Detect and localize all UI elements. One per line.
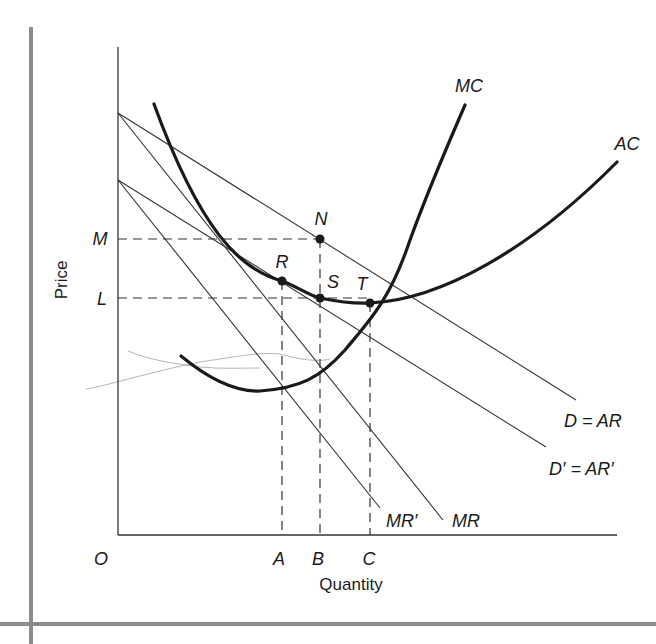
price-label-l: L xyxy=(97,289,107,309)
economics-diagram: Price Quantity O M L A B C N R S T MC AC… xyxy=(0,0,656,644)
origin-label: O xyxy=(94,549,108,569)
quantity-label-b: B xyxy=(312,549,324,569)
curve-label-mc: MC xyxy=(455,76,484,96)
point-label-r: R xyxy=(276,252,289,272)
point-label-s: S xyxy=(327,272,339,292)
point-label-n: N xyxy=(315,209,329,229)
mr-curve xyxy=(118,113,443,520)
demand-curve-d-ar xyxy=(118,113,576,400)
ac-curve xyxy=(154,104,617,303)
curve-label-ac: AC xyxy=(613,134,640,154)
quantity-label-a: A xyxy=(272,549,285,569)
price-label-m: M xyxy=(93,229,108,249)
mr-prime-curve xyxy=(118,180,380,508)
stray-marks xyxy=(86,351,330,389)
point-n xyxy=(316,235,325,244)
point-s xyxy=(316,294,325,303)
mc-curve xyxy=(181,105,465,391)
point-t xyxy=(366,299,375,308)
curve-label-d-ar: D = AR xyxy=(564,411,622,431)
curve-label-d-ar-prime: D′ = AR′ xyxy=(549,459,614,479)
frame-left-bar xyxy=(29,27,33,644)
x-axis-label: Quantity xyxy=(319,575,383,594)
frame-bottom-bar xyxy=(0,622,656,626)
point-r xyxy=(278,277,287,286)
y-axis-label: Price xyxy=(52,261,71,300)
curve-label-mr-prime: MR′ xyxy=(386,511,418,531)
curve-label-mr: MR xyxy=(452,511,480,531)
demand-curve-d-ar-prime xyxy=(118,180,546,447)
point-label-t: T xyxy=(357,274,370,294)
quantity-label-c: C xyxy=(363,549,377,569)
